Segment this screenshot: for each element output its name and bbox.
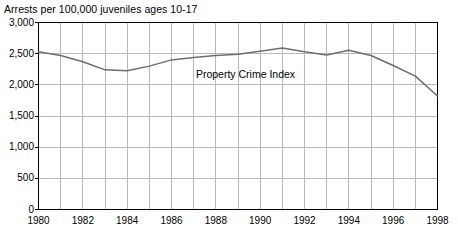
x-axis-tick-label: 1990 [240, 216, 280, 226]
y-axis-tick-label: 2,500 [0, 49, 34, 59]
plot-area [0, 0, 458, 238]
y-axis-tick-label: 1,000 [0, 142, 34, 152]
x-axis-tick-label: 1982 [63, 216, 103, 226]
y-axis-tick-label: 0 [0, 205, 34, 215]
y-axis-tick-label: 2,000 [0, 80, 34, 90]
y-axis-tick-label: 500 [0, 173, 34, 183]
x-axis-tick-label: 1986 [152, 216, 192, 226]
y-axis-tick-label: 1,500 [0, 111, 34, 121]
series-annotation-property-crime-index: Property Crime Index [196, 69, 295, 80]
x-axis-tick-label: 1998 [418, 216, 458, 226]
x-axis-tick-label: 1980 [19, 216, 59, 226]
x-axis-tick-label: 1994 [329, 216, 369, 226]
x-axis-tick-label: 1988 [196, 216, 236, 226]
property-crime-index-chart: Arrests per 100,000 juveniles ages 10-17… [0, 0, 458, 238]
y-axis-tick-label: 3,000 [0, 18, 34, 28]
x-axis-tick-label: 1984 [107, 216, 147, 226]
x-axis-tick-label: 1996 [373, 216, 413, 226]
x-axis-tick-label: 1992 [285, 216, 325, 226]
